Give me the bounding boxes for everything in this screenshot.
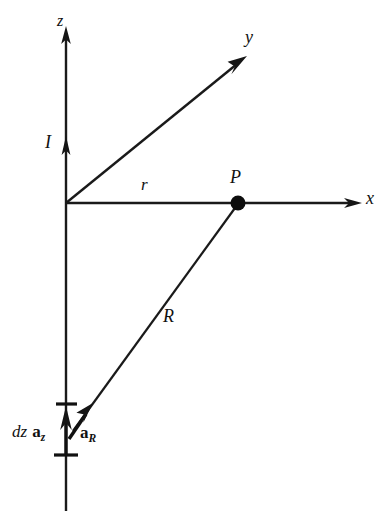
y-axis-group xyxy=(66,56,247,203)
R-vector-line xyxy=(73,208,235,431)
y-axis-line xyxy=(66,64,237,203)
dz-az-label: dzaz xyxy=(12,423,45,444)
y-axis-label: y xyxy=(245,28,253,46)
az-subscript: z xyxy=(41,431,46,444)
diagram-svg xyxy=(0,0,385,521)
aR-label: aR xyxy=(80,424,96,445)
R-vector-group xyxy=(73,208,235,431)
az-vector-symbol: a xyxy=(32,422,41,441)
aR-arrowhead xyxy=(76,403,93,423)
current-label: I xyxy=(45,133,51,151)
aR-vector-symbol: a xyxy=(80,423,89,442)
y-axis-arrowhead xyxy=(228,56,247,74)
dz-text: dz xyxy=(12,422,27,441)
z-axis-label: z xyxy=(57,13,63,29)
aR-subscript: R xyxy=(89,432,97,445)
figure-canvas: z y x I r P R dzaz aR xyxy=(0,0,385,521)
x-axis-group xyxy=(66,198,362,208)
point-P-dot xyxy=(231,196,246,211)
R-distance-label: R xyxy=(163,307,174,325)
radial-distance-label: r xyxy=(141,176,148,193)
x-axis-label: x xyxy=(366,189,374,207)
point-P-label: P xyxy=(230,168,241,186)
